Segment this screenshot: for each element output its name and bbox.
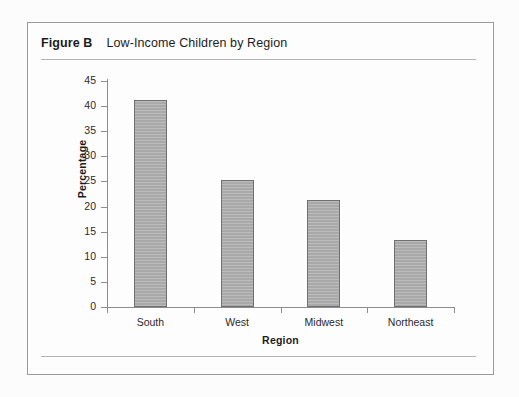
bar-northeast (394, 240, 427, 307)
y-axis-tick (101, 131, 107, 132)
y-axis-line (107, 79, 108, 308)
bottom-divider (41, 356, 476, 357)
x-axis-category-label: South (105, 316, 195, 328)
y-axis-tick (101, 282, 107, 283)
x-axis-category-label: West (192, 316, 282, 328)
y-axis-tick-label: 10 (70, 250, 96, 262)
x-axis-tick (194, 307, 195, 313)
y-axis-tick (101, 232, 107, 233)
x-axis-tick (281, 307, 282, 313)
chart-plot-area: 051015202530354045 SouthWestMidwestNorth… (28, 23, 495, 376)
y-axis-tick (101, 257, 107, 258)
y-axis-tick (101, 207, 107, 208)
y-axis-tick-label: 5 (70, 275, 96, 287)
y-axis-title: Percentage (76, 109, 88, 229)
figure-frame: Figure B Low-Income Children by Region 0… (27, 22, 494, 375)
x-axis-title: Region (107, 334, 454, 346)
y-axis-tick (101, 181, 107, 182)
x-axis-tick (367, 307, 368, 313)
y-axis-tick (101, 156, 107, 157)
x-axis-category-label: Northeast (366, 316, 456, 328)
x-axis-tick (107, 307, 108, 313)
bar-midwest (307, 200, 340, 307)
y-axis-tick (101, 81, 107, 82)
bar-west (221, 180, 254, 307)
bar-south (134, 100, 167, 307)
y-axis-tick-label: 45 (70, 74, 96, 86)
x-axis-tick (454, 307, 455, 313)
y-axis-tick (101, 106, 107, 107)
y-axis-tick-label: 0 (70, 300, 96, 312)
x-axis-category-label: Midwest (279, 316, 369, 328)
